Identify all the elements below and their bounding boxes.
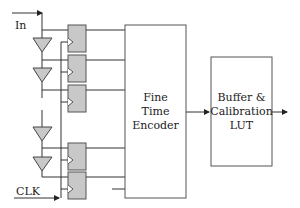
fine-time-encoder-label: Fine Time Encoder [125,25,186,198]
ff-output-lines [86,30,125,177]
in-label: In [15,19,26,32]
delay-buffer-icon [33,157,52,171]
calibration-lut-label: Buffer & Calibration LUT [211,57,272,166]
flip-flop-icon [68,25,86,52]
lut-line-3: LUT [230,119,253,133]
encoder-line-1: Fine [143,91,168,105]
lut-line-2: Calibration [210,105,273,119]
flip-flop-icon [68,55,86,82]
clk-label: CLK [16,185,40,198]
encoder-line-3: Encoder [132,119,179,133]
clock-bus [61,42,68,198]
encoder-line-2: Time [142,105,170,119]
delay-buffer-icon [33,127,52,141]
lut-line-1: Buffer & [217,91,265,105]
flip-flop-icon [68,85,86,112]
delay-buffer-icon [33,68,52,82]
delay-buffer-icon [33,38,52,52]
flip-flop-icon [68,172,86,199]
flip-flop-icon [68,143,86,170]
delay-chain-bottom [42,110,68,177]
